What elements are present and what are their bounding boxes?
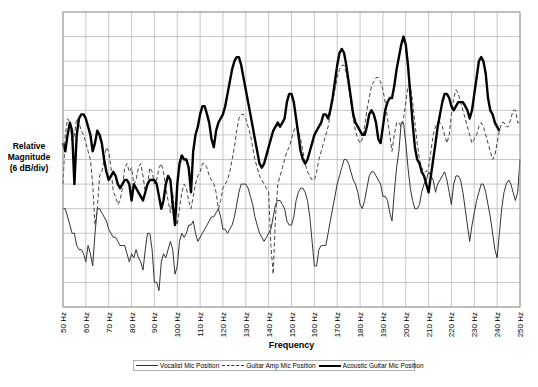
x-tick-label: 190 Hz [379, 312, 388, 337]
x-tick-label: 250 Hz [516, 312, 525, 337]
chart: 50 Hz60 Hz70 Hz80 Hz90 Hz100 Hz110 Hz120… [0, 0, 538, 387]
x-tick-label: 130 Hz [242, 312, 251, 337]
legend-label: Vocalist Mic Position [160, 362, 219, 369]
x-tick-label: 120 Hz [219, 312, 228, 337]
legend-label: Guitar Amp Mic Position [246, 362, 315, 369]
legend-swatch-thick-line [319, 365, 341, 367]
x-tick-label: 240 Hz [493, 312, 502, 337]
legend-swatch-thin-line [136, 365, 158, 366]
legend-item-acoustic-guitar: Acoustic Guitar Mic Position [319, 362, 424, 369]
legend-item-guitar-amp: Guitar Amp Mic Position [222, 362, 315, 369]
x-tick-label: 50 Hz [59, 312, 68, 333]
x-tick-label: 210 Hz [425, 312, 434, 337]
x-tick-label: 180 Hz [356, 312, 365, 337]
legend-label: Acoustic Guitar Mic Position [343, 362, 424, 369]
x-tick-label: 100 Hz [173, 312, 182, 337]
y-axis-label-line-1: Relative [0, 141, 58, 152]
x-tick-label: 150 Hz [288, 312, 297, 337]
y-axis-label-line-2: Magnitude [0, 152, 58, 163]
x-tick-label: 70 Hz [105, 312, 114, 333]
series-line-acoustic-guitar-mic-position [63, 37, 499, 226]
legend: Vocalist Mic Position Guitar Amp Mic Pos… [133, 360, 415, 371]
grid [63, 12, 520, 307]
x-tick-label: 60 Hz [82, 312, 91, 333]
legend-swatch-dashed-line [222, 365, 244, 366]
x-tick-label: 110 Hz [196, 312, 205, 337]
x-tick-label: 90 Hz [150, 312, 159, 333]
x-tick-label: 200 Hz [402, 312, 411, 337]
y-axis-label: Relative Magnitude (6 dB/div) [0, 141, 58, 174]
y-axis-label-line-3: (6 dB/div) [0, 163, 58, 174]
x-tick-label: 220 Hz [447, 312, 456, 337]
x-tick-label: 230 Hz [470, 312, 479, 337]
x-tick-label: 170 Hz [333, 312, 342, 337]
x-axis-label: Frequency [0, 340, 538, 350]
x-tick-label: 160 Hz [310, 312, 319, 337]
x-tick-labels: 50 Hz60 Hz70 Hz80 Hz90 Hz100 Hz110 Hz120… [59, 312, 525, 337]
x-tick-label: 80 Hz [128, 312, 137, 333]
x-tick-label: 140 Hz [265, 312, 274, 337]
legend-item-vocalist: Vocalist Mic Position [136, 362, 219, 369]
